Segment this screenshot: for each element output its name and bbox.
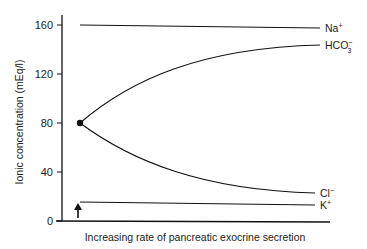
start-point-dot (77, 120, 83, 126)
na-line (80, 25, 320, 28)
label-cl: Cl− (320, 187, 334, 199)
up-arrow-icon (74, 203, 82, 218)
cl-line (80, 123, 315, 193)
ion-concentration-chart: 0 40 80 120 160 Ionic concentration (mEq… (0, 0, 367, 249)
tick-label-40: 40 (41, 166, 53, 178)
tick-label-0: 0 (47, 215, 53, 227)
label-hco3: HCO−3 (325, 39, 352, 54)
tick-label-160: 160 (35, 19, 53, 31)
y-tick-labels: 0 40 80 120 160 (35, 19, 53, 227)
x-axis-label: Increasing rate of pancreatic exocrine s… (85, 231, 306, 243)
y-ticks (57, 25, 62, 221)
label-k: K+ (320, 199, 331, 211)
tick-label-120: 120 (35, 68, 53, 80)
x-axis (56, 221, 330, 222)
y-axis-label: Ionic concentration (mEq/l) (13, 60, 25, 185)
label-na: Na+ (325, 22, 343, 34)
hco3-line (80, 45, 320, 123)
k-line (80, 202, 315, 205)
tick-label-80: 80 (41, 117, 53, 129)
